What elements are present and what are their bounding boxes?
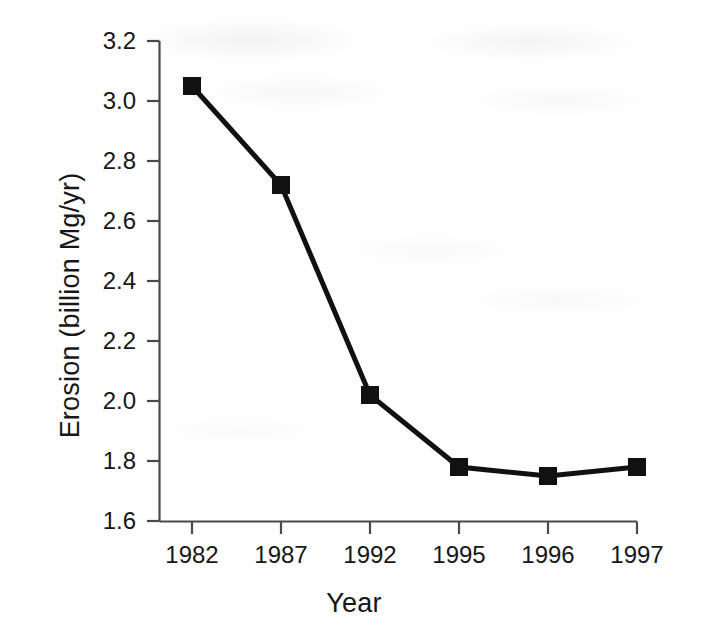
data-point-marker [628, 458, 646, 476]
x-tick-label: 1987 [254, 541, 307, 569]
x-tick-label: 1982 [165, 541, 218, 569]
x-tick-label: 1992 [343, 541, 396, 569]
x-axis-title: Year [0, 588, 708, 619]
data-point-marker [183, 77, 201, 95]
data-point-marker [361, 386, 379, 404]
x-tick-label: 1996 [521, 541, 574, 569]
data-point-marker [272, 176, 290, 194]
data-point-markers [183, 77, 646, 485]
data-point-marker [450, 458, 468, 476]
erosion-line-chart-figure: 3.23.02.82.62.42.22.01.81.6 198219871992… [0, 0, 708, 642]
y-axis-ticks [147, 41, 160, 521]
y-axis-title: Erosion (billion Mg/yr) [55, 96, 86, 516]
y-tick-label: 3.2 [58, 27, 136, 55]
x-axis-ticks [192, 522, 637, 535]
data-point-marker [539, 467, 557, 485]
data-series-line [192, 86, 637, 476]
x-tick-label: 1997 [610, 541, 663, 569]
x-tick-label: 1995 [432, 541, 485, 569]
